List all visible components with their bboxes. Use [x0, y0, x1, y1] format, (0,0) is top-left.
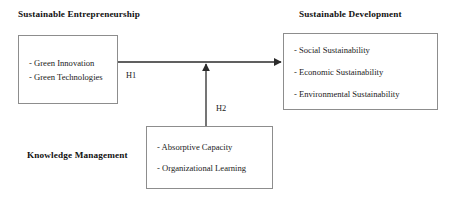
box-sustainable-development-items: - Social Sustainability - Economic Susta… [284, 34, 437, 109]
list-item: - Economic Sustainability [284, 61, 437, 83]
diagram-canvas: Sustainable Entrepreneurship Sustainable… [0, 0, 449, 206]
box-knowledge-management: - Absorptive Capacity - Organizational L… [146, 126, 273, 189]
edge-label-h2: H2 [216, 104, 226, 113]
box-sustainable-entrepreneurship: - Green Innovation - Green Technologies [18, 35, 118, 104]
list-item: - Social Sustainability [284, 39, 437, 61]
list-item: - Green Innovation [19, 56, 117, 70]
box-knowledge-management-items: - Absorptive Capacity - Organizational L… [147, 127, 272, 188]
list-item: - Green Technologies [19, 70, 117, 84]
list-item: - Organizational Learning [147, 158, 272, 179]
box-sustainable-entrepreneurship-items: - Green Innovation - Green Technologies [19, 36, 117, 103]
list-item: - Absorptive Capacity [147, 137, 272, 158]
edge-label-h1: H1 [126, 71, 136, 80]
box-sustainable-development: - Social Sustainability - Economic Susta… [283, 33, 438, 110]
list-item: - Environmental Sustainability [284, 83, 437, 105]
